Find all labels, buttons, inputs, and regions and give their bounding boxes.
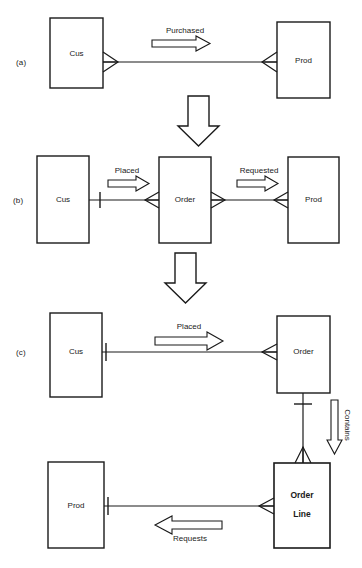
relationship-arrow-requests-c — [155, 516, 222, 534]
stage-label-c: (c) — [16, 348, 26, 357]
crowsfoot-many-orderline-c-left — [259, 498, 274, 514]
relationship-arrow-contains-c — [327, 400, 342, 454]
entity-label-cus-b: Cus — [37, 194, 89, 205]
transition-arrow-b-c — [165, 253, 206, 303]
relationship-label-requests-c: Requests — [160, 534, 220, 543]
transition-arrow-a-b — [178, 96, 219, 146]
crowsfoot-many-prod-a — [262, 52, 277, 72]
relationship-arrow-requested-b — [237, 176, 278, 191]
relationship-arrow-placed-c — [155, 332, 223, 350]
stage-label-a: (a) — [16, 58, 26, 67]
stage-label-b: (b) — [13, 196, 23, 205]
entity-label-cus-a: Cus — [50, 48, 103, 59]
crowsfoot-many-order-b-right — [211, 192, 225, 208]
entity-label-cus-c: Cus — [50, 346, 102, 357]
crowsfoot-many-order-b-left — [145, 192, 159, 208]
relationship-arrow-placed-b — [108, 176, 149, 191]
relationship-label-placed-b: Placed — [102, 166, 152, 175]
relationship-label-purchased: Purchased — [155, 26, 215, 35]
entity-label-prod-a: Prod — [277, 55, 330, 66]
relationship-label-contains-c: Contains — [343, 400, 352, 450]
er-diagram-canvas — [0, 0, 362, 568]
entity-label-orderline-c: Order Line — [274, 486, 330, 524]
relationship-label-placed-c: Placed — [162, 322, 216, 331]
relationship-label-requested-b: Requested — [230, 166, 288, 175]
crowsfoot-many-orderline-c-top — [295, 447, 311, 463]
crowsfoot-many-prod-b — [274, 192, 288, 208]
relationship-arrow-purchased — [152, 36, 210, 51]
entity-label-order-c: Order — [277, 346, 330, 357]
entity-label-prod-c: Prod — [48, 500, 104, 511]
entity-label-prod-b: Prod — [288, 194, 339, 205]
crowsfoot-many-order-c-left — [262, 344, 277, 360]
entity-label-order-b: Order — [159, 194, 211, 205]
crowsfoot-many-cus-a — [103, 52, 118, 72]
